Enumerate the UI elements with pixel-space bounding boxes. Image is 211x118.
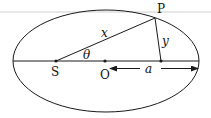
label-theta: θ [83,48,91,62]
label-P: P [157,2,165,16]
label-a: a [145,62,152,76]
focus-point-S [54,59,57,62]
ellipse-diagram: P S O x y θ a [0,0,211,118]
label-O: O [100,68,110,82]
label-y: y [161,34,169,48]
label-x: x [101,26,108,40]
label-S: S [51,65,59,79]
perpendicular-line-y [155,18,161,61]
foot-point [159,59,162,62]
center-point-O [103,59,106,62]
